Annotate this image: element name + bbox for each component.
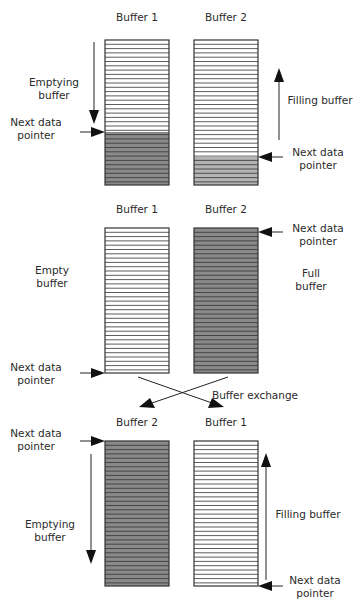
stage2-left-pointer-arrow-head — [91, 368, 105, 378]
stage3-filling-arrow-head — [261, 453, 271, 467]
stage2-buffer1-title: Buffer 1 — [109, 203, 165, 215]
stage2-full-label-line1: Full — [281, 267, 341, 279]
stage1-buffer2-title: Buffer 2 — [198, 11, 254, 23]
stage1-left-pointer-arrow-head — [91, 127, 105, 137]
stage3-right-pointer-arrow-head — [258, 581, 272, 591]
stage3-buffer1-title: Buffer 1 — [198, 416, 254, 428]
stage3-buffer2-title: Buffer 2 — [109, 416, 165, 428]
stage3-emptying-arrow-head — [86, 550, 96, 564]
stage1-emptying-label-line2: buffer — [24, 89, 84, 101]
stage2-empty-label-line2: buffer — [22, 277, 82, 289]
stage1-filling-label: Filling buffer — [286, 94, 354, 106]
stage2-full-label-line2: buffer — [281, 280, 341, 292]
stage3-filling-label: Filling buffer — [272, 508, 344, 520]
stage2-right-pointer-label-line1: Next data — [288, 222, 348, 234]
stage3-emptying-label-line1: Emptying — [20, 518, 80, 530]
stage1-left-pointer-label-line2: pointer — [6, 129, 66, 141]
stage2-empty-label-line1: Empty — [22, 264, 82, 276]
stage1-emptying-label-line1: Emptying — [24, 76, 84, 88]
stage1-emptying-arrow-head — [89, 110, 99, 124]
double-buffering-diagram: Buffer 1 Buffer 2 Emptying buffer Next d… — [0, 0, 361, 606]
stage3-left-pointer-arrow-head — [91, 436, 105, 446]
stage1-right-pointer-label-line2: pointer — [288, 159, 348, 171]
stage2-buffer2-title: Buffer 2 — [198, 203, 254, 215]
stage3-left-pointer-label-line2: pointer — [6, 440, 66, 452]
stage3-left-pointer-label-line1: Next data — [6, 427, 66, 439]
stage1-left-pointer-label-line1: Next data — [6, 116, 66, 128]
stage2-right-pointer-label-line2: pointer — [288, 235, 348, 247]
stage1-buffer1-title: Buffer 1 — [109, 11, 165, 23]
stage3-right-pointer-label-line2: pointer — [285, 587, 345, 599]
buffer-exchange-label: Buffer exchange — [211, 389, 299, 401]
stage1-buffer-2-filled-region — [194, 157, 258, 185]
stage2-right-pointer-arrow-head — [258, 227, 272, 237]
stage1-filling-arrow-head — [274, 68, 284, 82]
stage1-right-pointer-arrow-head — [258, 152, 272, 162]
stage3-right-pointer-label-line1: Next data — [285, 574, 345, 586]
stage1-buffer-1-filled-region — [105, 132, 169, 185]
stage2-left-pointer-label-line2: pointer — [6, 374, 66, 386]
stage3-emptying-label-line2: buffer — [20, 531, 80, 543]
stage2-left-pointer-label-line1: Next data — [6, 361, 66, 373]
stage1-right-pointer-label-line1: Next data — [288, 146, 348, 158]
